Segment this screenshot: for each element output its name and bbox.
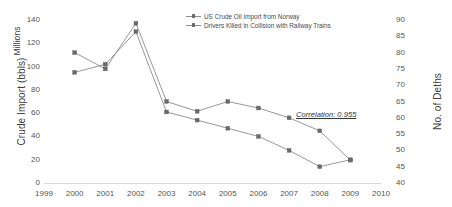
legend-item-railway-deaths: Drivers Killed in Collision with Railway…	[186, 21, 331, 30]
data-point-marker	[318, 129, 322, 133]
data-point-marker	[226, 126, 230, 130]
data-point-marker	[287, 149, 291, 153]
data-point-marker	[103, 67, 107, 71]
data-point-marker	[195, 118, 199, 122]
data-point-marker	[73, 70, 77, 74]
legend: US Crude Oil Import from Norway Drivers …	[186, 12, 331, 30]
data-point-marker	[257, 106, 261, 110]
data-point-marker	[348, 158, 352, 162]
data-point-marker	[134, 30, 138, 34]
data-point-marker	[287, 116, 291, 120]
series-line-railway-deaths	[75, 23, 351, 160]
data-point-marker	[195, 109, 199, 113]
data-point-marker	[165, 100, 169, 104]
data-point-marker	[73, 51, 77, 55]
legend-line-marker-icon	[186, 13, 201, 20]
data-point-marker	[226, 100, 230, 104]
legend-line-marker-icon	[186, 22, 201, 29]
data-point-marker	[318, 165, 322, 169]
legend-item-crude-oil: US Crude Oil Import from Norway	[186, 12, 331, 21]
correlation-line-chart: Crude Import (bbls) Millions No. of Deth…	[0, 0, 452, 207]
legend-item-label: US Crude Oil Import from Norway	[204, 12, 300, 21]
correlation-annotation: Correlation: 0.955	[296, 110, 356, 119]
data-point-marker	[257, 135, 261, 139]
data-point-marker	[165, 110, 169, 114]
legend-item-label: Drivers Killed in Collision with Railway…	[204, 21, 331, 30]
plot-area	[0, 0, 452, 207]
data-point-marker	[103, 62, 107, 66]
series-line-crude-oil	[75, 32, 351, 167]
data-point-marker	[134, 21, 138, 25]
